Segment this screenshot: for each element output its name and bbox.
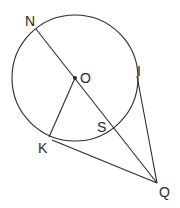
label-s: S xyxy=(97,119,106,135)
tangent-iq xyxy=(137,76,157,183)
label-q: Q xyxy=(159,184,170,200)
geometry-diagram: N O I S K Q xyxy=(0,0,180,208)
label-n: N xyxy=(25,13,35,29)
label-o: O xyxy=(80,70,91,86)
center-dot xyxy=(73,76,77,80)
tangent-kq xyxy=(52,140,157,183)
label-i: I xyxy=(137,63,141,79)
radius-ok xyxy=(49,78,75,137)
label-k: K xyxy=(38,140,48,156)
line-nq xyxy=(36,29,157,183)
